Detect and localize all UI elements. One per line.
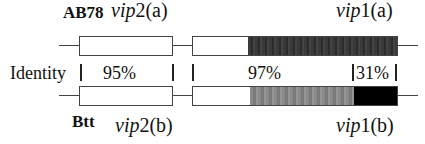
divider-tick [172, 64, 174, 81]
gene-name: vip [336, 114, 360, 136]
flank-line-left [59, 45, 80, 46]
gene-name: vip [111, 0, 135, 21]
identity-vip1-cterm: 31% [356, 63, 389, 84]
flank-line-right [397, 45, 418, 46]
gene-number: 1 [360, 114, 370, 136]
gene-name: vip [115, 114, 139, 136]
gene-label-vip1a: vip1(a) [336, 0, 393, 22]
strain-label-top: AB78 [63, 3, 104, 23]
vip1b-box [192, 86, 398, 106]
vip1b-divergent-region [354, 87, 397, 105]
gene-suffix: (a) [145, 0, 167, 21]
intergenic-line [172, 45, 193, 46]
gene-label-vip2b: vip2(b) [115, 114, 173, 137]
gene-suffix: (b) [370, 114, 393, 136]
intergenic-line [172, 95, 193, 96]
vip1a-conserved-region [248, 37, 397, 55]
gene-number: 2 [139, 114, 149, 136]
divider-tick [80, 64, 82, 81]
strain-label-bottom: Btt [72, 112, 95, 132]
vip2a-box [79, 36, 173, 56]
gene-suffix: (a) [370, 0, 392, 21]
gene-number: 1 [360, 0, 370, 21]
divider-tick [395, 64, 397, 81]
gene-label-vip1b: vip1(b) [336, 114, 394, 137]
gene-label-vip2a: vip2(a) [111, 0, 168, 22]
vip2b-box [79, 86, 173, 106]
identity-label: Identity [10, 63, 66, 84]
vip1b-conserved-region [250, 87, 354, 105]
vip1a-box [192, 36, 398, 56]
identity-vip2: 95% [103, 63, 136, 84]
gene-number: 2 [135, 0, 145, 21]
divider-tick [352, 64, 354, 81]
divider-tick [192, 64, 194, 81]
gene-name: vip [336, 0, 360, 21]
flank-line-right [397, 95, 418, 96]
flank-line-left [59, 95, 80, 96]
identity-vip1-nterm: 97% [248, 63, 281, 84]
gene-suffix: (b) [149, 114, 172, 136]
